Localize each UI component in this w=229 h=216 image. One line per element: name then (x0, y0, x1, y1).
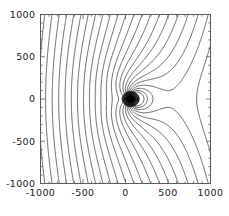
x-tick-label-0: 0 (122, 187, 128, 198)
y-tick-label-500: 500 (16, 51, 35, 62)
y-tick-label-1000: 1000 (10, 9, 36, 20)
x-tick-label--500: -500 (71, 187, 94, 198)
x-tick-label-500: 500 (158, 187, 177, 198)
x-tick-label--1000: -1000 (26, 187, 56, 198)
singularity-core (126, 95, 134, 102)
x-tick-label-1000: 1000 (198, 187, 224, 198)
y-tick-label--500: -500 (12, 136, 35, 147)
contour-plot-figure: -1000-50005001000 -1000-50005001000 (0, 0, 229, 216)
y-tick-label-0: 0 (29, 93, 35, 104)
plot-canvas: -1000-50005001000 -1000-50005001000 (0, 0, 229, 216)
